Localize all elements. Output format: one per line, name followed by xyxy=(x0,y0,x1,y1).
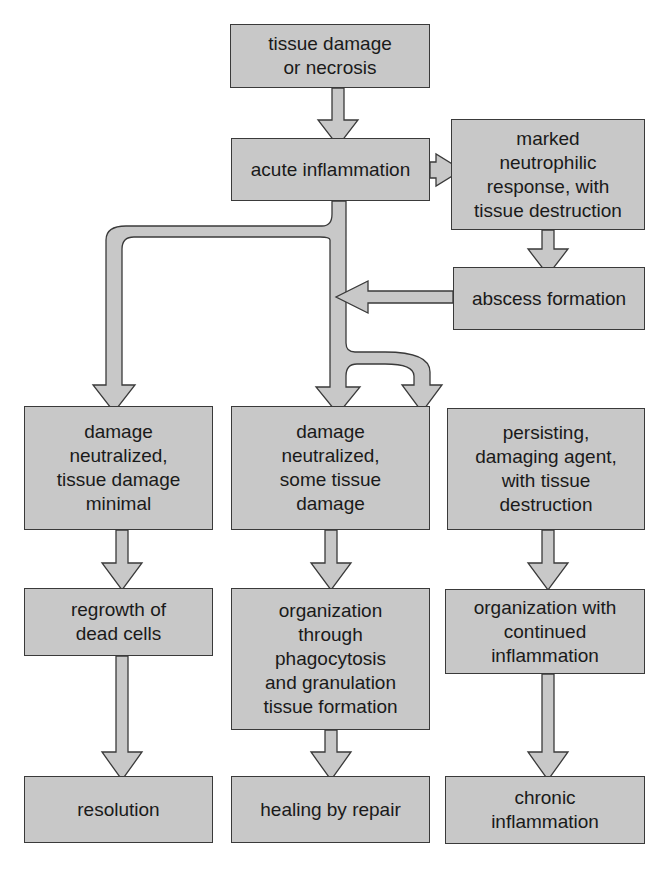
node-acute-inflammation: acute inflammation xyxy=(231,138,430,201)
arrow-down-icon xyxy=(311,730,351,780)
arrow-down-icon xyxy=(528,674,568,780)
trunk-connector xyxy=(93,201,442,414)
inflammation-flowchart: tissue damage or necrosis acute inflamma… xyxy=(0,0,668,870)
node-abscess-formation: abscess formation xyxy=(453,267,645,330)
node-healing-by-repair: healing by repair xyxy=(231,776,430,843)
node-some-tissue-damage: damage neutralized, some tissue damage xyxy=(231,406,430,530)
node-neutrophilic-response: marked neutrophilic response, with tissu… xyxy=(451,119,645,230)
node-regrowth: regrowth of dead cells xyxy=(24,588,213,656)
arrow-down-icon xyxy=(311,530,351,590)
node-damage-minimal: damage neutralized, tissue damage minima… xyxy=(24,406,213,530)
node-tissue-damage: tissue damage or necrosis xyxy=(230,24,430,88)
node-organization-continued: organization with continued inflammation xyxy=(445,589,645,674)
arrow-left-icon xyxy=(336,281,453,313)
arrow-down-icon xyxy=(102,530,142,590)
arrow-down-icon xyxy=(528,530,568,590)
arrow-down-icon xyxy=(102,656,142,780)
node-organization-phagocytosis: organization through phagocytosis and gr… xyxy=(231,588,430,730)
node-persisting-agent: persisting, damaging agent, with tissue … xyxy=(447,408,645,530)
node-resolution: resolution xyxy=(24,776,213,843)
node-chronic-inflammation: chronic inflammation xyxy=(445,776,645,844)
